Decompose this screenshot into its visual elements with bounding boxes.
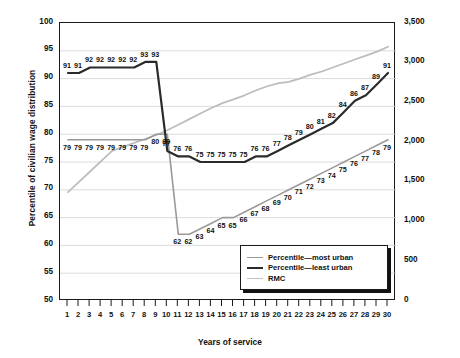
chart-legend: Percentile—most urbanPercentile—least ur… [240,245,388,290]
point-value-label: 75 [206,150,214,159]
point-value-label: 71 [295,187,303,196]
y-tick-label-right: 1,500 [404,175,444,184]
point-value-label: 79 [140,143,148,152]
point-value-label: 79 [85,143,93,152]
point-value-label: 91 [383,61,391,70]
point-value-label: 82 [328,111,336,120]
point-value-label: 75 [240,150,248,159]
point-value-label: 72 [306,182,314,191]
point-value-label: 78 [372,148,380,157]
point-value-label: 92 [96,55,104,64]
point-value-label: 75 [339,165,347,174]
y-tick-label-right: 1,000 [404,215,444,224]
y-tick-label-right: 2,500 [404,96,444,105]
legend-item: RMC [247,274,381,283]
y-tick-label-right: 3,000 [404,56,444,65]
point-value-label: 66 [240,215,248,224]
point-value-label: 78 [284,133,292,142]
point-value-label: 92 [118,55,126,64]
y-tick-label-left: 95 [19,44,53,53]
point-value-label: 79 [295,128,303,137]
y-tick-label-left: 55 [19,267,53,276]
y-tick-label-left: 80 [19,128,53,137]
point-value-label: 76 [350,159,358,168]
y-tick-label-left: 70 [19,183,53,192]
point-value-label: 79 [96,143,104,152]
point-value-label: 69 [273,198,281,207]
legend-swatch-line [247,267,263,269]
point-value-label: 68 [262,204,270,213]
point-value-label: 64 [206,226,214,235]
legend-swatch-line [247,278,263,279]
legend-label: RMC [268,274,285,283]
point-value-label: 93 [151,50,159,59]
point-value-label: 76 [251,144,259,153]
legend-item: Percentile—least urban [247,263,381,272]
chart-root: Percentile of civilian wage distribution… [0,0,460,358]
point-value-label: 77 [162,139,170,148]
point-value-label: 76 [184,144,192,153]
point-value-label: 92 [129,55,137,64]
point-value-label: 74 [328,171,336,180]
point-value-label: 91 [63,61,71,70]
x-axis-title: Years of service [0,337,460,347]
point-value-label: 80 [306,122,314,131]
point-value-label: 77 [361,154,369,163]
legend-item: Percentile—most urban [247,253,381,262]
point-value-label: 81 [317,117,325,126]
legend-label: Percentile—most urban [268,253,353,262]
point-value-label: 67 [251,209,259,218]
legend-label: Percentile—least urban [268,263,352,272]
point-value-label: 80 [151,137,159,146]
point-value-label: 93 [140,50,148,59]
y-tick-label-left: 75 [19,156,53,165]
y-tick-label-right: 2,000 [404,136,444,145]
y-tick-label-left: 100 [19,17,53,26]
y-tick-label-left: 85 [19,100,53,109]
point-value-label: 62 [184,237,192,246]
y-tick-label-right: 500 [404,255,444,264]
point-value-label: 87 [361,83,369,92]
legend-swatch-line [247,257,263,258]
point-value-label: 63 [195,232,203,241]
point-value-label: 70 [284,193,292,202]
point-value-label: 79 [118,143,126,152]
point-value-label: 79 [383,143,391,152]
y-tick-label-left: 90 [19,72,53,81]
y-tick-label-right: 3,500 [404,17,444,26]
point-value-label: 86 [350,89,358,98]
x-tick-marks [0,300,460,312]
point-value-label: 79 [63,143,71,152]
point-value-label: 65 [217,221,225,230]
point-value-label: 76 [173,144,181,153]
point-value-label: 79 [107,143,115,152]
y-tick-label-left: 65 [19,211,53,220]
point-value-label: 91 [74,61,82,70]
point-value-label: 76 [262,144,270,153]
y-tick-label-left: 60 [19,239,53,248]
point-value-label: 75 [229,150,237,159]
point-value-label: 75 [195,150,203,159]
point-value-label: 92 [107,55,115,64]
point-value-label: 79 [129,143,137,152]
point-value-label: 89 [372,72,380,81]
point-value-label: 84 [339,100,347,109]
point-value-label: 62 [173,237,181,246]
point-value-label: 92 [85,55,93,64]
point-value-label: 77 [273,139,281,148]
point-value-label: 75 [217,150,225,159]
point-value-label: 65 [229,221,237,230]
point-value-label: 79 [74,143,82,152]
point-value-label: 73 [317,176,325,185]
